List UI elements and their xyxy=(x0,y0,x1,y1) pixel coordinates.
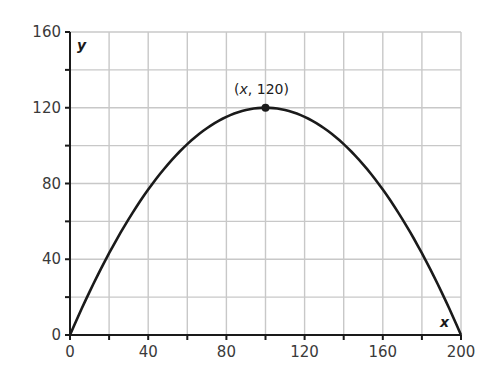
vertex-marker xyxy=(262,104,270,112)
y-tick-label: 120 xyxy=(32,99,61,117)
x-tick-label: 40 xyxy=(139,343,158,361)
grid-lines xyxy=(70,32,461,335)
y-tick-label: 160 xyxy=(32,23,61,41)
y-axis-label: y xyxy=(77,37,87,53)
x-tick-label: 80 xyxy=(217,343,236,361)
axes xyxy=(65,32,461,340)
x-axis-label: x xyxy=(439,314,450,330)
x-tick-label: 200 xyxy=(447,343,476,361)
y-tick-label: 40 xyxy=(42,250,61,268)
vertex-annotation: (x, 120) xyxy=(234,81,289,97)
tick-labels: 0408012016020004080120160 xyxy=(32,23,475,361)
y-tick-label: 0 xyxy=(51,326,61,344)
y-tick-label: 80 xyxy=(42,175,61,193)
x-tick-label: 120 xyxy=(290,343,319,361)
parabola-chart: 0408012016020004080120160 (x, 120) y x xyxy=(0,0,489,383)
x-tick-label: 0 xyxy=(65,343,75,361)
x-tick-label: 160 xyxy=(368,343,397,361)
